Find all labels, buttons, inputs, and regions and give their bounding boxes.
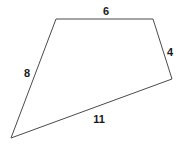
geometry-figure: 6 4 11 8 [0, 0, 182, 145]
side-length-label-top: 6 [103, 6, 109, 17]
quadrilateral-outline [11, 19, 172, 138]
side-length-label-right: 4 [167, 47, 173, 58]
side-length-label-left: 8 [24, 68, 30, 79]
side-length-label-bottom: 11 [93, 114, 105, 125]
